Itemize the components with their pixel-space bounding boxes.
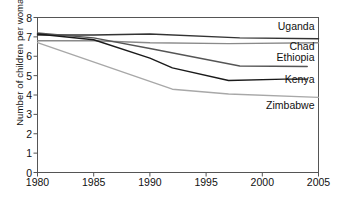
line-chart: Number of children per woman 876543210 1… <box>0 0 340 204</box>
series-label-uganda: Uganda <box>0 20 315 32</box>
series-label-ethiopia: Ethiopia <box>0 51 315 63</box>
x-tick-label: 1985 <box>82 176 105 188</box>
y-tick-label: 1 <box>26 148 32 159</box>
y-tick-label: 3 <box>26 109 32 120</box>
series-label-chad: Chad <box>0 40 315 52</box>
y-tick-label: 2 <box>26 129 32 140</box>
series-label-zimbabwe: Zimbabwe <box>0 99 315 111</box>
x-tick-label: 1995 <box>194 176 217 188</box>
x-tick-label: 1980 <box>26 176 49 188</box>
x-tick-label: 1990 <box>138 176 161 188</box>
x-tick-label: 2000 <box>251 176 274 188</box>
series-label-kenya: Kenya <box>0 73 315 85</box>
x-tick-label: 2005 <box>307 176 330 188</box>
x-axis-tick-labels: 198019851990199520002005 <box>0 176 340 192</box>
